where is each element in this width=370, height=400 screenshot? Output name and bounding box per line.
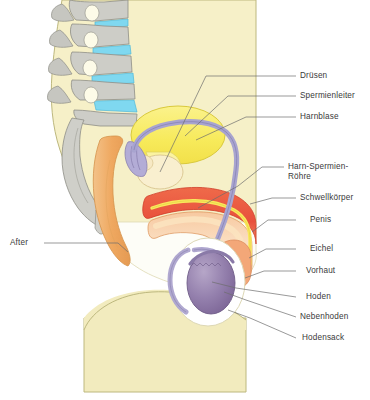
label-harnblase: Harnblase [300, 112, 339, 122]
label-vorhaut: Vorhaut [306, 266, 335, 276]
label-spermienleiter: Spermienleiter [300, 91, 355, 101]
anatomy-figure: Drüsen Spermienleiter Harnblase Harn-Spe… [0, 0, 370, 400]
label-eichel: Eichel [310, 244, 333, 254]
label-harn-spermien-roehre-line1: Harn-Spermien- [288, 162, 348, 172]
label-harn-spermien-roehre-line2: Röhre [288, 172, 311, 182]
label-hoden: Hoden [306, 292, 331, 302]
label-hodensack: Hodensack [302, 333, 344, 343]
label-druesen: Drüsen [300, 71, 327, 81]
testis [187, 251, 235, 314]
label-schwellkoerper: Schwellkörper [300, 193, 353, 203]
label-after: After [10, 238, 28, 248]
label-nebenhoden: Nebenhoden [300, 312, 348, 322]
label-penis: Penis [310, 215, 331, 225]
